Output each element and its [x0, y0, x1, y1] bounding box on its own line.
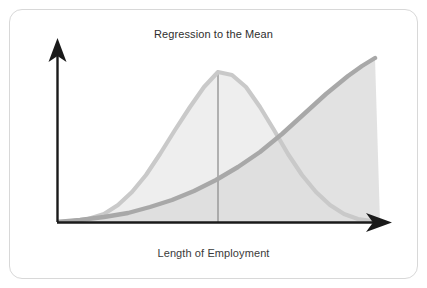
chart-canvas [0, 0, 427, 288]
chart-figure: Regression to the Mean Length of Employm… [0, 0, 427, 288]
x-axis-label: Length of Employment [0, 247, 427, 259]
chart-title: Regression to the Mean [0, 28, 427, 40]
